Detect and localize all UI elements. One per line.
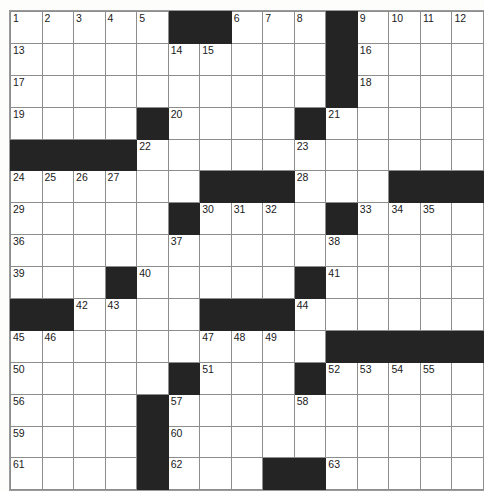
crossword-cell[interactable]	[168, 299, 200, 331]
crossword-cell[interactable]	[74, 75, 106, 107]
crossword-cell[interactable]	[357, 267, 389, 299]
crossword-cell[interactable]: 17	[11, 75, 43, 107]
crossword-cell[interactable]: 62	[168, 458, 200, 490]
crossword-cell[interactable]: 35	[420, 203, 452, 235]
crossword-cell[interactable]: 19	[11, 107, 43, 139]
crossword-cell[interactable]: 4	[105, 12, 137, 44]
crossword-cell[interactable]: 5	[137, 12, 169, 44]
crossword-cell[interactable]: 49	[263, 330, 295, 362]
crossword-cell[interactable]	[74, 203, 106, 235]
crossword-cell[interactable]: 41	[326, 267, 358, 299]
crossword-cell[interactable]	[389, 299, 421, 331]
crossword-cell[interactable]	[168, 139, 200, 171]
crossword-cell[interactable]	[326, 299, 358, 331]
crossword-cell[interactable]: 34	[389, 203, 421, 235]
crossword-cell[interactable]: 15	[200, 43, 232, 75]
crossword-cell[interactable]	[452, 362, 484, 394]
crossword-cell[interactable]	[357, 171, 389, 203]
crossword-cell[interactable]	[294, 235, 326, 267]
crossword-cell[interactable]	[294, 426, 326, 458]
crossword-cell[interactable]: 37	[168, 235, 200, 267]
crossword-cell[interactable]: 11	[420, 12, 452, 44]
crossword-cell[interactable]	[137, 43, 169, 75]
crossword-cell[interactable]	[42, 75, 74, 107]
crossword-cell[interactable]	[263, 107, 295, 139]
crossword-cell[interactable]: 43	[105, 299, 137, 331]
crossword-cell[interactable]	[137, 299, 169, 331]
crossword-cell[interactable]	[263, 394, 295, 426]
crossword-cell[interactable]	[231, 426, 263, 458]
crossword-cell[interactable]	[389, 75, 421, 107]
crossword-cell[interactable]	[74, 426, 106, 458]
crossword-cell[interactable]	[168, 267, 200, 299]
crossword-cell[interactable]	[168, 75, 200, 107]
crossword-cell[interactable]	[42, 107, 74, 139]
crossword-cell[interactable]	[137, 171, 169, 203]
crossword-cell[interactable]	[42, 362, 74, 394]
crossword-cell[interactable]	[42, 43, 74, 75]
crossword-cell[interactable]	[137, 75, 169, 107]
crossword-cell[interactable]: 20	[168, 107, 200, 139]
crossword-cell[interactable]	[137, 362, 169, 394]
crossword-cell[interactable]	[74, 330, 106, 362]
crossword-cell[interactable]	[42, 203, 74, 235]
crossword-cell[interactable]: 42	[74, 299, 106, 331]
crossword-cell[interactable]: 52	[326, 362, 358, 394]
crossword-cell[interactable]: 7	[263, 12, 295, 44]
crossword-cell[interactable]	[105, 75, 137, 107]
crossword-cell[interactable]: 6	[231, 12, 263, 44]
crossword-cell[interactable]	[357, 426, 389, 458]
crossword-cell[interactable]: 55	[420, 362, 452, 394]
crossword-cell[interactable]: 45	[11, 330, 43, 362]
crossword-cell[interactable]	[200, 235, 232, 267]
crossword-cell[interactable]	[294, 330, 326, 362]
crossword-cell[interactable]: 2	[42, 12, 74, 44]
crossword-cell[interactable]	[452, 458, 484, 490]
crossword-cell[interactable]	[420, 458, 452, 490]
crossword-cell[interactable]	[105, 203, 137, 235]
crossword-cell[interactable]	[168, 330, 200, 362]
crossword-cell[interactable]: 22	[137, 139, 169, 171]
crossword-cell[interactable]	[263, 139, 295, 171]
crossword-cell[interactable]	[231, 267, 263, 299]
crossword-cell[interactable]	[74, 107, 106, 139]
crossword-cell[interactable]: 30	[200, 203, 232, 235]
crossword-cell[interactable]	[389, 426, 421, 458]
crossword-cell[interactable]: 18	[357, 75, 389, 107]
crossword-cell[interactable]	[389, 43, 421, 75]
crossword-cell[interactable]: 29	[11, 203, 43, 235]
crossword-cell[interactable]	[420, 75, 452, 107]
crossword-cell[interactable]	[420, 107, 452, 139]
crossword-cell[interactable]	[420, 235, 452, 267]
crossword-grid[interactable]: 1234567891011121314151617181920212223242…	[10, 11, 484, 490]
crossword-cell[interactable]	[105, 458, 137, 490]
crossword-cell[interactable]	[357, 458, 389, 490]
crossword-cell[interactable]: 13	[11, 43, 43, 75]
crossword-cell[interactable]	[357, 107, 389, 139]
crossword-cell[interactable]	[263, 426, 295, 458]
crossword-cell[interactable]: 26	[74, 171, 106, 203]
crossword-cell[interactable]	[42, 394, 74, 426]
crossword-cell[interactable]: 54	[389, 362, 421, 394]
crossword-cell[interactable]	[231, 43, 263, 75]
crossword-cell[interactable]	[74, 43, 106, 75]
crossword-cell[interactable]: 51	[200, 362, 232, 394]
crossword-cell[interactable]	[452, 203, 484, 235]
crossword-cell[interactable]	[200, 139, 232, 171]
crossword-cell[interactable]	[263, 235, 295, 267]
crossword-cell[interactable]	[357, 394, 389, 426]
crossword-cell[interactable]	[42, 235, 74, 267]
crossword-cell[interactable]	[263, 43, 295, 75]
crossword-cell[interactable]	[74, 235, 106, 267]
crossword-cell[interactable]	[200, 426, 232, 458]
crossword-cell[interactable]	[389, 458, 421, 490]
crossword-cell[interactable]	[231, 75, 263, 107]
crossword-cell[interactable]	[231, 235, 263, 267]
crossword-cell[interactable]	[452, 235, 484, 267]
crossword-cell[interactable]	[420, 299, 452, 331]
crossword-cell[interactable]: 47	[200, 330, 232, 362]
crossword-cell[interactable]	[420, 394, 452, 426]
crossword-cell[interactable]	[231, 107, 263, 139]
crossword-cell[interactable]	[105, 330, 137, 362]
crossword-cell[interactable]	[452, 75, 484, 107]
